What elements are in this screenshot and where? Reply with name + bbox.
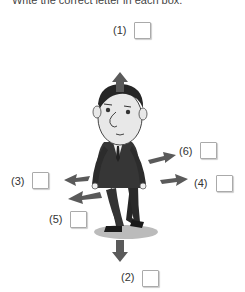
arrow-back-right-icon bbox=[148, 152, 176, 164]
item-5-label: (5) bbox=[49, 213, 62, 225]
item-5-answer-box[interactable] bbox=[70, 211, 87, 228]
arrow-left-icon bbox=[64, 174, 90, 186]
item-6-label: (6) bbox=[179, 145, 192, 157]
arrow-down-icon bbox=[112, 240, 128, 262]
arrow-back-left-icon bbox=[68, 191, 102, 204]
item-4-label: (4) bbox=[194, 177, 207, 189]
item-2-label: (2) bbox=[121, 271, 134, 283]
item-6-answer-box[interactable] bbox=[200, 142, 217, 159]
item-2-answer-box[interactable] bbox=[142, 270, 159, 287]
arrow-right-icon bbox=[160, 174, 188, 186]
item-1-label: (1) bbox=[113, 24, 126, 36]
item-3-label: (3) bbox=[11, 175, 24, 187]
item-4-answer-box[interactable] bbox=[216, 175, 233, 192]
item-1-answer-box[interactable] bbox=[134, 22, 151, 39]
item-3-answer-box[interactable] bbox=[32, 172, 49, 189]
